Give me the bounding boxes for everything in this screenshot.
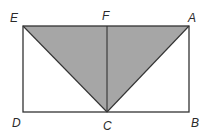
shaded-triangle-eac xyxy=(23,26,189,112)
label-a: A xyxy=(187,11,196,25)
label-d: D xyxy=(12,116,21,130)
geometry-diagram: E F A D C B xyxy=(0,0,206,137)
label-c: C xyxy=(103,119,112,133)
label-e: E xyxy=(10,11,19,25)
label-f: F xyxy=(102,9,110,23)
label-b: B xyxy=(191,116,199,130)
